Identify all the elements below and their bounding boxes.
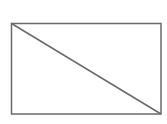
rectangle-diagonal-diagram [0, 0, 167, 124]
diagonal-line [12, 24, 162, 115]
